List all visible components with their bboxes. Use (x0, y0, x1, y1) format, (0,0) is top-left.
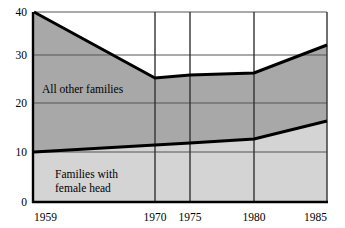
x-tick-label-1970: 1970 (144, 211, 167, 223)
x-tick-label-1975: 1975 (179, 211, 202, 223)
x-tick-label-1985: 1985 (304, 211, 327, 223)
y-tick-label-20: 20 (16, 97, 28, 109)
y-tick-label-10: 10 (16, 146, 28, 158)
band-label-all-other-families: All other families (42, 83, 124, 95)
x-tick-label-1980: 1980 (243, 211, 266, 223)
y-tick-label-40: 40 (16, 6, 28, 18)
y-tick-label-30: 30 (16, 49, 28, 61)
band-label-female-head-line1: Families with (55, 168, 118, 180)
area-chart: 40 30 20 10 0 1959 1970 1975 1980 1985 A… (0, 0, 345, 228)
y-tick-label-0: 0 (21, 196, 27, 208)
chart-canvas: 40 30 20 10 0 1959 1970 1975 1980 1985 A… (0, 0, 345, 228)
band-label-female-head-line2: female head (55, 182, 111, 194)
x-tick-label-1959: 1959 (34, 211, 57, 223)
